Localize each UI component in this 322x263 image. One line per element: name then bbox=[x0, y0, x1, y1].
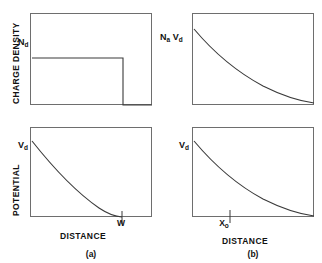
curve-exponential-potential bbox=[194, 141, 314, 216]
curve-step-charge-density bbox=[32, 58, 152, 105]
figure-semiconductor-junction-profiles: CHARGE DENSITY POTENTIAL Nd Na Vd Vd W D… bbox=[0, 0, 322, 263]
caption-a: (a) bbox=[83, 249, 99, 259]
label-vd-panel-b: Vd bbox=[179, 141, 189, 150]
x-axis-label-distance-a: DISTANCE bbox=[60, 231, 106, 241]
tick-label-x0: Xo bbox=[213, 219, 235, 228]
panel-a-charge-density bbox=[30, 13, 152, 105]
caption-b: (b) bbox=[245, 249, 261, 259]
plot-a-potential bbox=[31, 128, 153, 218]
tick-label-w: W bbox=[113, 219, 129, 228]
y-axis-label-charge-density: CHARGE DENSITY bbox=[11, 22, 21, 104]
label-nd: Nd bbox=[18, 38, 28, 47]
curve-exponential-charge-density bbox=[194, 29, 314, 103]
label-na-vd: Na Vd bbox=[160, 33, 183, 42]
label-vd-panel-a: Vd bbox=[18, 141, 28, 150]
panel-b-potential bbox=[192, 127, 314, 217]
panel-b-charge-density bbox=[192, 13, 314, 105]
panel-a-potential bbox=[30, 127, 152, 217]
curve-parabolic-potential bbox=[32, 141, 122, 217]
plot-b-potential bbox=[193, 128, 315, 218]
y-axis-label-potential: POTENTIAL bbox=[11, 164, 21, 216]
plot-b-charge-density bbox=[193, 14, 315, 106]
plot-a-charge-density bbox=[31, 14, 153, 106]
x-axis-label-distance-b: DISTANCE bbox=[222, 236, 268, 246]
